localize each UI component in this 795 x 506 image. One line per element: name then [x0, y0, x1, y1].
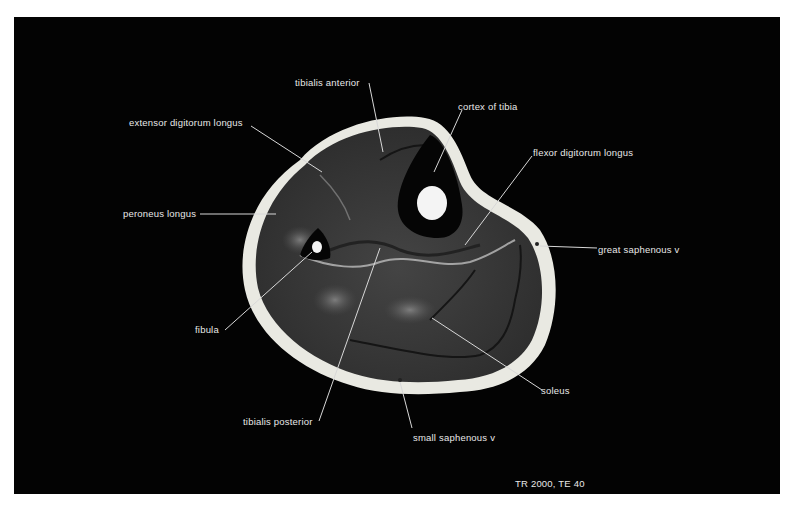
label-great-saphenous-v: great saphenous v: [598, 244, 680, 255]
label-fibula: fibula: [195, 324, 219, 335]
label-extensor-digitorum-longus: extensor digitorum longus: [129, 117, 243, 128]
label-peroneus-longus: peroneus longus: [123, 208, 196, 219]
label-tibialis-anterior: tibialis anterior: [295, 77, 360, 88]
label-tibialis-posterior: tibialis posterior: [243, 416, 313, 427]
label-soleus: soleus: [541, 385, 570, 396]
label-small-saphenous-v: small saphenous v: [413, 432, 495, 443]
small-saphenous-vein-dot: [398, 378, 402, 382]
label-flexor-digitorum-longus: flexor digitorum longus: [533, 147, 633, 158]
great-saphenous-vein-dot: [535, 242, 539, 246]
sequence-parameters: TR 2000, TE 40: [515, 478, 585, 489]
label-cortex-of-tibia: cortex of tibia: [458, 101, 518, 112]
tibia-marrow: [417, 186, 447, 220]
fibula-marrow: [312, 241, 322, 253]
